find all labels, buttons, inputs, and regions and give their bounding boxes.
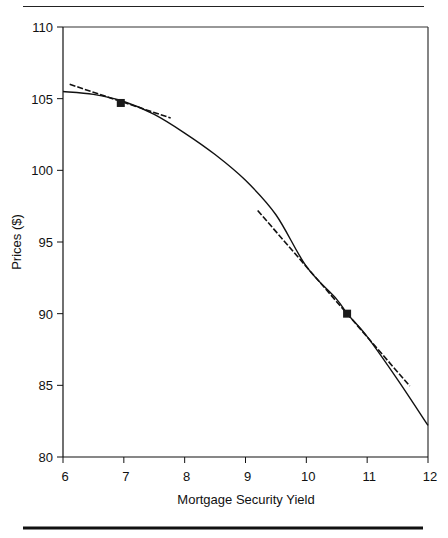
series-layer — [63, 84, 428, 425]
y-tick-label: 85 — [39, 378, 53, 393]
y-tick-label: 80 — [39, 450, 53, 465]
x-tick-label: 6 — [61, 469, 68, 484]
chart: 80859095100105110 6789101112 Mortgage Se… — [0, 0, 448, 538]
y-tick-label: 105 — [31, 92, 53, 107]
y-axis: 80859095100105110 — [31, 20, 63, 465]
x-tick-label: 10 — [301, 469, 315, 484]
x-tick-label: 12 — [423, 469, 437, 484]
x-tick-label: 11 — [362, 469, 376, 484]
y-tick-label: 110 — [32, 20, 53, 35]
y-tick-label: 90 — [39, 307, 53, 322]
x-axis: 6789101112 — [61, 457, 437, 484]
point-low-yield-marker — [117, 99, 125, 107]
x-tick-label: 8 — [183, 469, 190, 484]
y-tick-label: 100 — [31, 163, 53, 178]
x-tick-label: 9 — [244, 469, 251, 484]
tangent-line-2 — [258, 210, 410, 386]
y-axis-title: Prices ($) — [9, 214, 24, 270]
marker-layer — [117, 99, 351, 318]
price-yield-curve — [63, 92, 428, 426]
point-high-yield-marker — [343, 310, 351, 318]
y-tick-label: 95 — [39, 235, 53, 250]
plot-frame — [63, 27, 428, 457]
x-tick-label: 7 — [122, 469, 129, 484]
x-axis-title: Mortgage Security Yield — [177, 492, 314, 507]
